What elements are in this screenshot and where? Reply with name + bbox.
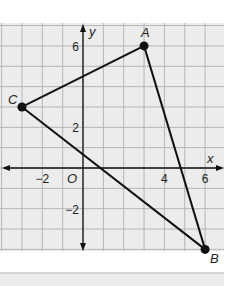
- next-grid-edge: [0, 273, 224, 286]
- x-tick-label: −2: [35, 172, 49, 186]
- point-label-A: A: [140, 25, 150, 40]
- coordinate-plane: ABC y x O −24662−2: [0, 0, 232, 286]
- point-A: [140, 41, 149, 50]
- x-axis-label: x: [206, 151, 214, 166]
- y-tick-label: −2: [65, 203, 79, 217]
- point-C: [17, 102, 26, 111]
- y-tick-label: 2: [72, 121, 79, 135]
- grid-background: [0, 23, 224, 251]
- point-label-C: C: [8, 92, 18, 107]
- x-tick-label: 6: [202, 172, 209, 186]
- x-tick-label: 4: [161, 172, 168, 186]
- y-tick-label: 6: [72, 40, 79, 54]
- origin-label: O: [67, 171, 77, 186]
- point-B: [201, 245, 210, 254]
- point-label-B: B: [210, 251, 219, 266]
